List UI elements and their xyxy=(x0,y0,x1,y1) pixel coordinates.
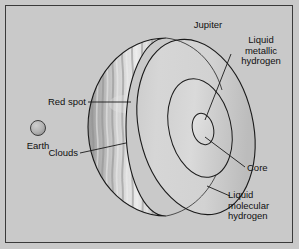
label-core: Core xyxy=(247,163,281,174)
label-liquid-molecular-hydrogen: Liquid molecular hydrogen xyxy=(228,190,288,222)
label-line: hydrogen xyxy=(228,211,288,222)
jupiter-diagram-figure: Jupiter Liquid metallic hydrogen Red spo… xyxy=(0,0,299,249)
label-red-spot: Red spot xyxy=(30,97,86,108)
label-liquid-metallic-hydrogen: Liquid metallic hydrogen xyxy=(232,35,290,67)
red-spot-feature xyxy=(109,95,139,113)
label-line: hydrogen xyxy=(232,56,290,67)
earth-sphere xyxy=(31,121,46,136)
label-jupiter: Jupiter xyxy=(178,20,238,31)
label-clouds: Clouds xyxy=(30,148,78,159)
label-line: Liquid xyxy=(232,35,290,46)
label-line: Liquid xyxy=(228,190,288,201)
